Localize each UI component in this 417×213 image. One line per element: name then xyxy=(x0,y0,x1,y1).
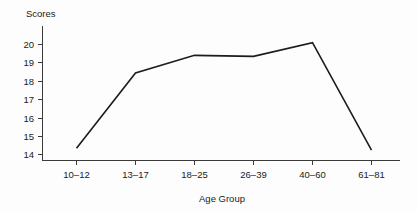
y-tick-label: 16 xyxy=(23,113,34,124)
x-tick-label: 10–12 xyxy=(63,169,89,180)
y-tick-label: 17 xyxy=(23,94,34,105)
x-tick-label: 13–17 xyxy=(122,169,148,180)
chart-canvas: Scores 20 19 18 17 16 15 14 xyxy=(0,0,417,213)
y-tick-label: 14 xyxy=(23,149,34,160)
y-axis-title: Scores xyxy=(26,8,56,19)
x-tick-label: 26–39 xyxy=(240,169,266,180)
line-chart-figure: Scores 20 19 18 17 16 15 14 xyxy=(0,0,417,213)
x-axis-title: Age Group xyxy=(199,193,245,204)
x-tick-label: 40–60 xyxy=(299,169,325,180)
chart-background xyxy=(0,0,417,213)
y-tick-label: 18 xyxy=(23,76,34,87)
y-tick-label: 19 xyxy=(23,57,34,68)
y-tick-label: 15 xyxy=(23,131,34,142)
x-tick-label: 61–81 xyxy=(358,169,384,180)
x-tick-label: 18–25 xyxy=(181,169,207,180)
y-tick-label: 20 xyxy=(23,39,34,50)
